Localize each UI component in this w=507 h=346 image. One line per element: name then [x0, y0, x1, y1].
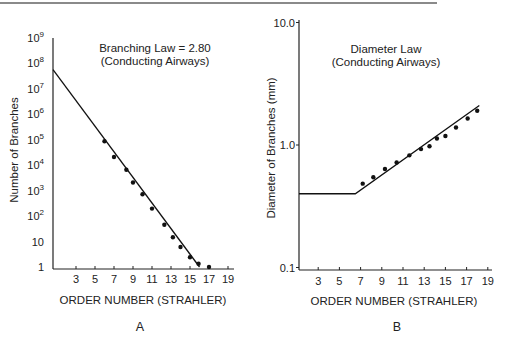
y-tick-label: 0.1 — [280, 262, 295, 274]
data-point — [112, 155, 116, 159]
data-point — [171, 235, 175, 239]
data-point — [207, 265, 211, 269]
panel-b-label: B — [393, 320, 401, 334]
data-point — [196, 262, 200, 266]
panel-a-subtitle: (Conducting Airways) — [101, 55, 210, 67]
x-tick-label: 11 — [397, 275, 408, 287]
x-tick-label: 13 — [418, 275, 430, 287]
x-tick-label: 9 — [379, 275, 385, 287]
y-tick-label: 108 — [27, 55, 44, 69]
panel-b-title: Diameter Law — [351, 43, 423, 55]
data-point — [435, 136, 439, 140]
data-point — [371, 175, 375, 179]
panel-a-x-label: ORDER NUMBER (STRAHLER) — [60, 294, 227, 306]
x-tick-label: 5 — [92, 273, 98, 285]
panel-a-title: Branching Law = 2.80 — [99, 42, 211, 54]
y-tick-label: 1.0 — [280, 139, 295, 151]
panel-a-y-label: Number of Branches — [8, 97, 20, 203]
x-tick-label: 7 — [111, 273, 117, 285]
panel-b: 10.01.00.1 35791113151719 Diameter Law (… — [265, 17, 494, 335]
data-point — [427, 144, 431, 148]
x-tick-label: 3 — [315, 275, 321, 287]
x-tick-label: 5 — [336, 275, 342, 287]
panel-b-subtitle: (Conducting Airways) — [332, 56, 441, 68]
panel-b-y-label: Diameter of Branches (mm) — [265, 77, 277, 218]
data-point — [407, 153, 411, 157]
data-point — [383, 167, 387, 171]
data-point — [361, 181, 365, 185]
data-point — [188, 255, 192, 259]
data-point — [475, 109, 479, 113]
y-tick-label: 10.0 — [274, 17, 295, 29]
panel-b-fit-line — [299, 106, 479, 194]
x-tick-label: 19 — [222, 273, 234, 285]
data-point — [178, 245, 182, 249]
panel-a-label: A — [136, 320, 145, 334]
x-tick-label: 17 — [203, 273, 215, 285]
x-tick-label: 17 — [460, 275, 472, 287]
data-point — [465, 116, 469, 120]
fit-line — [299, 106, 479, 194]
data-point — [140, 192, 144, 196]
y-tick-label: 1 — [38, 261, 44, 273]
x-tick-label: 3 — [73, 273, 79, 285]
data-point — [131, 180, 135, 184]
y-tick-label: 107 — [27, 81, 44, 95]
y-tick-label: 104 — [27, 157, 44, 171]
data-point — [454, 125, 458, 129]
panel-a-y-tick-labels: 109108107106105104103102101 — [27, 30, 44, 273]
x-tick-label: 15 — [184, 273, 196, 285]
panel-a: 109108107106105104103102101 357911131517… — [8, 30, 234, 334]
data-point — [394, 160, 398, 164]
data-point — [124, 168, 128, 172]
figure: 109108107106105104103102101 357911131517… — [0, 0, 507, 346]
y-tick-label: 103 — [27, 183, 44, 197]
y-tick-label: 106 — [27, 106, 44, 120]
data-point — [150, 206, 154, 210]
x-tick-label: 13 — [165, 273, 177, 285]
panel-b-y-tick-labels: 10.01.00.1 — [274, 17, 299, 274]
y-tick-label: 109 — [27, 30, 44, 44]
y-tick-label: 10 — [32, 236, 44, 248]
y-tick-label: 105 — [27, 132, 44, 146]
x-tick-label: 7 — [358, 275, 364, 287]
x-tick-label: 9 — [130, 273, 136, 285]
panel-b-x-label: ORDER NUMBER (STRAHLER) — [311, 295, 478, 307]
data-point — [419, 147, 423, 151]
x-tick-label: 15 — [439, 275, 451, 287]
x-tick-label: 19 — [482, 275, 494, 287]
data-point — [162, 223, 166, 227]
x-tick-label: 11 — [146, 273, 157, 285]
panel-b-data-points — [361, 109, 480, 186]
data-point — [443, 134, 447, 138]
y-tick-label: 102 — [27, 208, 44, 222]
data-point — [102, 139, 106, 143]
